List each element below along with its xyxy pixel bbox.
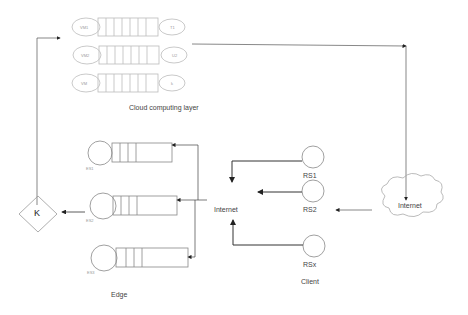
decision-symbol: K bbox=[34, 208, 40, 218]
client-nodes bbox=[302, 146, 325, 257]
edge-layer-title: Edge bbox=[111, 291, 127, 298]
client-layer-title: Client bbox=[301, 278, 319, 285]
cloud-vm-row-1 bbox=[72, 18, 185, 36]
diagram-canvas bbox=[0, 0, 468, 315]
internet-cloud-shape bbox=[381, 173, 443, 216]
cloud-to-internet-arrow bbox=[192, 44, 406, 200]
cloud-vm-row-3 bbox=[72, 74, 185, 92]
vm-label: VM bbox=[81, 81, 87, 86]
feedback-arrow bbox=[37, 38, 60, 205]
client-node-label: RS1 bbox=[303, 172, 317, 179]
edge-servers bbox=[88, 141, 188, 271]
edge-server-label: ES2 bbox=[86, 218, 94, 223]
cloud-vm-row-2 bbox=[73, 46, 187, 64]
cloud-layer-title: Cloud computing layer bbox=[129, 104, 199, 111]
edge-server-label: ES3 bbox=[87, 270, 95, 275]
task-label: k bbox=[171, 81, 173, 86]
client-node-label: RSx bbox=[303, 261, 316, 268]
task-label: U2 bbox=[172, 53, 177, 58]
client-internet-label: Internet bbox=[214, 206, 238, 213]
client-arrows bbox=[232, 161, 303, 245]
vm-label: VM1 bbox=[80, 25, 88, 30]
client-node-label: RS2 bbox=[303, 206, 317, 213]
internet-cloud-label: Internet bbox=[398, 202, 422, 209]
vm-label: VM2 bbox=[81, 53, 89, 58]
task-label: T1 bbox=[170, 25, 175, 30]
edge-server-label: ES1 bbox=[86, 166, 94, 171]
